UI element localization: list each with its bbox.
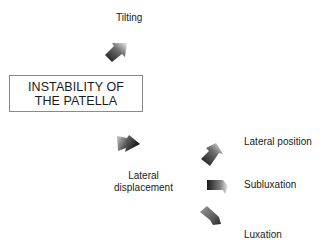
label-line: displacement [114,182,173,194]
main-concept-line1: INSTABILITY OF [28,80,124,94]
label-line: Lateral [114,170,173,182]
main-concept-box: INSTABILITY OF THE PATELLA [9,75,143,112]
arrow-up-right-icon [103,40,129,62]
label-lateral-displacement: Lateral displacement [114,170,173,194]
label-luxation: Luxation [244,229,282,241]
arrow-up-right-icon [199,141,225,167]
main-concept-line2: THE PATELLA [35,94,118,108]
arrow-down-right-icon [115,134,141,154]
label-subluxation: Subluxation [244,179,296,191]
arrow-down-right-icon [199,205,223,229]
label-lateral-position: Lateral position [244,136,312,148]
arrow-right-icon [206,178,230,196]
label-tilting: Tilting [116,12,142,24]
